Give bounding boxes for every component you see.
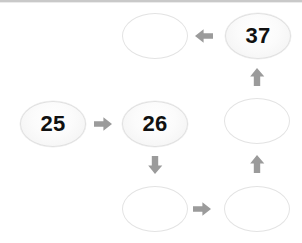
node-r0c2[interactable]: 37	[225, 13, 291, 59]
node-r0c1[interactable]	[122, 13, 188, 59]
node-r1c1[interactable]: 26	[122, 101, 188, 147]
node-r2c1[interactable]	[122, 186, 188, 232]
node-r2c2[interactable]	[224, 186, 290, 232]
arrow-right-icon	[192, 200, 212, 218]
arrow-right-icon	[93, 115, 113, 133]
arrow-up-icon	[248, 67, 266, 87]
node-r1c0-label: 25	[41, 113, 66, 135]
arrow-up-icon	[248, 154, 266, 174]
arrow-left-icon	[194, 27, 214, 45]
diagram-canvas: 37 25 26	[0, 0, 302, 243]
node-r1c2[interactable]	[224, 98, 290, 144]
node-r1c0[interactable]: 25	[20, 101, 86, 147]
top-divider-soft	[0, 2, 302, 3]
node-r1c1-label: 26	[143, 113, 168, 135]
arrow-down-icon	[146, 155, 164, 175]
node-r0c2-label: 37	[246, 25, 271, 47]
